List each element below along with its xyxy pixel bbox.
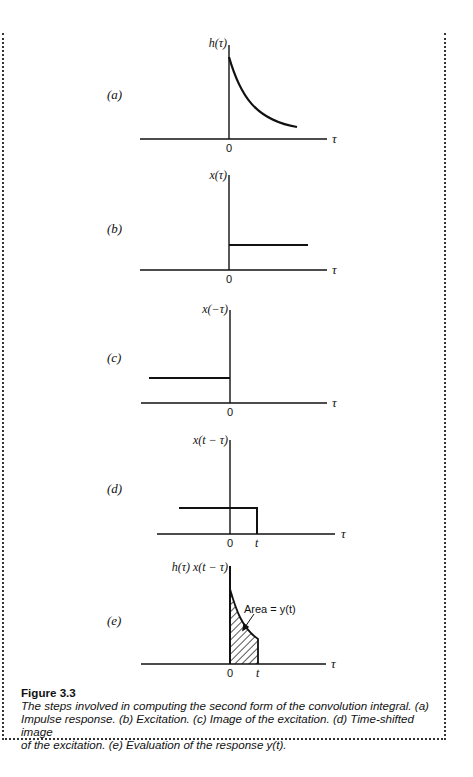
panel-e-t-tick: t [256,666,259,681]
panel-e-plot [141,566,326,664]
figure-caption: Figure 3.3 The steps involved in computi… [21,686,441,751]
panel-d-origin-tick: 0 [227,537,233,549]
caption-line-2: Impulse response. (b) Excitation. (c) Im… [21,712,441,738]
caption-line-1: The steps involved in computing the seco… [21,699,441,712]
panel-c-xlabel: τ [332,395,337,411]
panel-d-plot [157,440,335,534]
area-annotation: Area = y(t) [244,603,296,615]
panel-a-ylabel: h(τ) [209,36,227,51]
panel-a-origin-tick: 0 [226,142,232,154]
panel-e-origin-tick: 0 [227,667,233,679]
panel-c-plot [141,310,327,403]
panel-d-t-tick: t [255,536,258,551]
caption-line-3: of the excitation. (e) Evaluation of the… [21,738,441,751]
panel-e-ylabel: h(τ) x(t − τ) [172,560,228,575]
panel-b-label: (b) [107,221,122,237]
panel-d-ylabel: x(t − τ) [193,433,228,448]
panel-d-label: (d) [107,481,122,497]
panel-c-origin-tick: 0 [227,406,233,418]
panel-a-plot [140,45,327,139]
panel-e-label: (e) [107,613,121,629]
panel-c-ylabel: x(−τ) [202,302,228,317]
panel-b-ylabel: x(τ) [209,168,227,183]
panel-e-xlabel: τ [331,656,336,672]
convolution-figure [0,0,473,777]
figure-title: Figure 3.3 [21,686,441,699]
panel-b-plot [140,175,327,270]
panel-d-xlabel: τ [341,526,346,542]
panel-b-origin-tick: 0 [226,273,232,285]
panel-b-xlabel: τ [332,262,337,278]
panel-a-label: (a) [107,87,122,103]
panel-a-xlabel: τ [332,131,337,147]
panel-c-label: (c) [107,350,121,366]
